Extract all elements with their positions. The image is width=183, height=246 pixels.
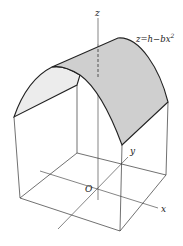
end-face [14,67,80,117]
equation-exponent: 2 [169,32,174,39]
z-axis-label: z [94,8,100,18]
equation-rhs: h−bx [148,34,171,44]
svg-text:z=h−bx2: z=h−bx2 [135,32,174,44]
y-axis-label: y [129,146,136,156]
surface-equation: z=h−bx2 [135,32,174,44]
origin-label: O [85,184,93,194]
parabolic-surface [52,38,168,145]
x-axis-label: x [161,204,166,214]
x-axis [40,171,158,208]
y-axis [58,157,128,229]
base-rectangle [20,153,166,231]
parabolic-cylinder-diagram: z y x O z=h−bx2 [0,0,183,246]
